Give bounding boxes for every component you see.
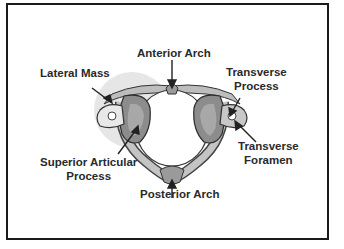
superior-articular-label-line2: Process (40, 169, 137, 183)
lateral-mass-label: Lateral Mass (40, 66, 110, 80)
superior-articular-label-line1: Superior Articular (40, 155, 137, 169)
anterior-arch-label: Anterior Arch (137, 46, 211, 60)
superior-articular-process-label: Superior Articular Process (40, 155, 137, 183)
transverse-process-label-line2: Process (226, 79, 287, 93)
posterior-arch-label: Posterior Arch (140, 187, 219, 201)
transverse-foramen-label-line1: Transverse (238, 139, 299, 153)
transverse-foramen-label-line2: Foramen (238, 153, 299, 167)
transverse-process-label-line1: Transverse (226, 65, 287, 79)
transverse-foramen-label: Transverse Foramen (238, 139, 299, 167)
transverse-process-label: Transverse Process (226, 65, 287, 93)
atlas-vertebra-illustration (0, 0, 344, 249)
